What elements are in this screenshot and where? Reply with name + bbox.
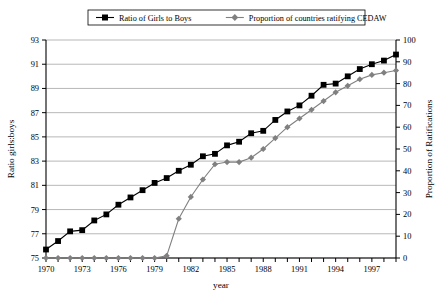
data-point-square xyxy=(369,61,375,67)
data-point-square xyxy=(200,153,206,159)
y-ticklabel-left: 85 xyxy=(31,133,39,142)
data-point-square xyxy=(67,228,73,234)
y-ticklabel-left: 81 xyxy=(31,181,39,190)
y-ticklabel-right: 90 xyxy=(403,58,411,67)
y-ticklabel-right: 10 xyxy=(403,232,411,241)
y-ticklabel-left: 79 xyxy=(31,206,39,215)
y-ticklabel-left: 75 xyxy=(31,254,39,263)
y-ticklabel-left: 91 xyxy=(31,60,39,69)
data-point-square xyxy=(55,238,61,244)
legend-label-0: Ratio of Girls to Boys xyxy=(119,14,191,23)
data-point-square xyxy=(393,52,399,58)
data-point-square xyxy=(381,58,387,64)
ratio-cedaw-line-chart: Ratio of Girls to BoysProportion of coun… xyxy=(0,0,444,297)
y-ticklabel-right: 40 xyxy=(403,167,411,176)
y-axis-title-left: Ratio girls:boys xyxy=(6,119,16,178)
y-ticklabel-left: 77 xyxy=(31,230,39,239)
data-point-square xyxy=(128,195,134,201)
x-ticklabel: 1994 xyxy=(327,265,345,274)
data-point-square xyxy=(321,82,327,88)
data-point-square xyxy=(164,175,170,181)
x-ticklabel: 1973 xyxy=(74,265,91,274)
y-ticklabel-right: 50 xyxy=(403,145,411,154)
y-ticklabel-right: 60 xyxy=(403,123,411,132)
y-ticklabel-right: 30 xyxy=(403,189,411,198)
x-ticklabel: 1976 xyxy=(110,265,127,274)
y-ticklabel-right: 80 xyxy=(403,80,411,89)
data-point-square xyxy=(272,117,278,123)
chart-legend: Ratio of Girls to BoysProportion of coun… xyxy=(88,10,387,25)
data-point-square xyxy=(103,212,109,218)
x-ticklabel: 1982 xyxy=(182,265,199,274)
data-point-square xyxy=(188,162,194,168)
y-ticklabel-right: 20 xyxy=(403,210,411,219)
x-axis-title: year xyxy=(213,280,229,290)
legend-item-1[interactable]: Proportion of countries ratifying CEDAW xyxy=(226,14,387,23)
x-ticklabel: 1991 xyxy=(291,265,308,274)
y-ticklabel-left: 87 xyxy=(31,109,39,118)
legend-square-marker-icon xyxy=(102,15,108,21)
data-point-square xyxy=(357,66,363,72)
data-point-square xyxy=(212,151,218,157)
y-ticklabel-left: 93 xyxy=(31,36,39,45)
data-point-square xyxy=(43,247,49,253)
data-point-square xyxy=(116,202,122,208)
data-point-square xyxy=(152,180,158,186)
data-point-square xyxy=(284,109,290,115)
data-point-square xyxy=(345,73,351,79)
data-point-square xyxy=(224,142,230,148)
legend-label-1: Proportion of countries ratifying CEDAW xyxy=(249,14,387,23)
y-ticklabel-right: 100 xyxy=(403,36,416,45)
y-ticklabel-left: 89 xyxy=(31,84,39,93)
y-axis-title-right: Proportion of Ratifications xyxy=(424,99,434,198)
data-point-square xyxy=(309,93,315,99)
data-point-square xyxy=(140,187,146,193)
chart-container: Ratio of Girls to BoysProportion of coun… xyxy=(0,0,444,297)
data-point-square xyxy=(236,139,242,145)
data-point-square xyxy=(248,130,254,136)
data-point-square xyxy=(79,227,85,233)
data-point-square xyxy=(333,81,339,87)
x-ticklabel: 1988 xyxy=(255,265,272,274)
data-point-square xyxy=(176,168,182,174)
y-ticklabel-left: 83 xyxy=(31,157,39,166)
data-point-square xyxy=(297,103,303,109)
y-ticklabel-right: 70 xyxy=(403,101,411,110)
x-ticklabel: 1997 xyxy=(363,265,380,274)
x-ticklabel: 1979 xyxy=(146,265,163,274)
y-ticklabel-right: 0 xyxy=(403,254,407,263)
data-point-square xyxy=(91,218,97,224)
data-point-square xyxy=(260,128,266,134)
x-ticklabel: 1970 xyxy=(38,265,55,274)
x-ticklabel: 1985 xyxy=(219,265,236,274)
